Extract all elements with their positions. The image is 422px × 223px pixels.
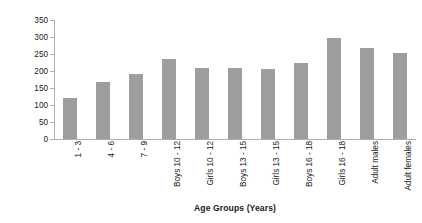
x-tick-label: 7 - 9 xyxy=(140,141,150,199)
x-tick-label: Girls 13 - 15 xyxy=(272,141,282,199)
bar xyxy=(393,53,407,139)
bar xyxy=(195,68,209,139)
bar xyxy=(327,38,341,139)
x-axis-title: Age Groups (Years) xyxy=(54,203,416,213)
x-tick-label: Boys 13 - 15 xyxy=(239,141,249,199)
y-tick-label: 250 xyxy=(34,50,48,59)
bar xyxy=(129,74,143,139)
bar xyxy=(294,63,308,139)
plot-area: 050100150200250300350 xyxy=(54,20,416,139)
x-tick-label: Adult females xyxy=(404,141,414,199)
y-tick-label: 200 xyxy=(34,67,48,76)
x-tick-label: Girls 10 - 12 xyxy=(206,141,216,199)
x-tick-label: Boys 16 - 18 xyxy=(305,141,315,199)
bar xyxy=(360,48,374,139)
y-tick-mark xyxy=(50,139,54,140)
x-tick-label: 4 - 6 xyxy=(107,141,117,199)
bar xyxy=(63,98,77,139)
x-tick-label: 1 - 3 xyxy=(74,141,84,199)
y-tick-label: 300 xyxy=(34,33,48,42)
bar xyxy=(96,82,110,139)
y-tick-label: 150 xyxy=(34,84,48,93)
y-tick-label: 50 xyxy=(39,118,48,127)
x-tick-label: Boys 10 - 12 xyxy=(173,141,183,199)
x-axis-tick-labels: 1 - 34 - 67 - 9Boys 10 - 12Girls 10 - 12… xyxy=(54,141,416,199)
y-tick-label: 350 xyxy=(34,16,48,25)
bar xyxy=(228,68,242,139)
x-axis-line xyxy=(54,139,416,140)
bar xyxy=(261,69,275,139)
vitamin-a-intake-bar-chart: Vitamin A Intake (µg) 050100150200250300… xyxy=(0,0,422,223)
bar xyxy=(162,59,176,139)
x-tick-label: Girls 16 - 18 xyxy=(338,141,348,199)
x-tick-label: Adult males xyxy=(371,141,381,199)
y-tick-label: 0 xyxy=(43,135,48,144)
bar-series xyxy=(54,20,416,139)
y-tick-label: 100 xyxy=(34,101,48,110)
